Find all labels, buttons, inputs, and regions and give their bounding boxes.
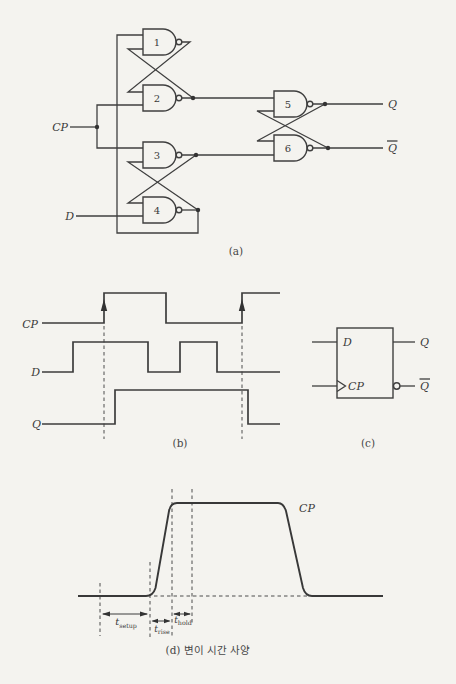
circuit-qbar-label: Q <box>388 142 397 155</box>
t-rise-arrowhead-left <box>152 619 159 623</box>
symbol-c: D CP Q Q (c) <box>312 328 430 449</box>
symbol-qbar-bubble <box>394 383 400 389</box>
junction-g3-out <box>194 153 198 157</box>
gate-5-number: 5 <box>285 99 291 110</box>
spec-d: tsetup trise thold CP (d) 변이 시간 사양 <box>78 489 383 656</box>
junction-cp <box>95 125 99 129</box>
circuit-cp-label: CP <box>52 121 68 134</box>
wire-g2-out-to-g1-in <box>128 49 193 98</box>
t-setup-arrowhead-left <box>102 612 110 617</box>
d-waveform <box>42 342 280 372</box>
t-setup-label: tsetup <box>115 616 137 630</box>
gate-3-number: 3 <box>154 150 160 161</box>
circuit-q-label: Q <box>388 98 397 111</box>
timing-b: CP D Q (b) <box>22 293 280 449</box>
caption-d: (d) 변이 시간 사양 <box>166 644 251 656</box>
timing-q-label: Q <box>32 418 41 431</box>
circuit-d-label: D <box>64 210 74 223</box>
circuit-a: 1 2 3 4 5 6 CP D Q Q <box>52 29 397 257</box>
t-hold-label: thold <box>174 615 192 626</box>
dff-figure-svg: 1 2 3 4 5 6 CP D Q Q <box>0 0 456 684</box>
cp-rising-edge-arrow-2 <box>239 299 245 311</box>
junction-g2-out <box>191 96 195 100</box>
symbol-cp-label: CP <box>348 380 364 393</box>
t-hold-arrowhead-right <box>184 612 191 616</box>
caption-a: (a) <box>229 245 243 257</box>
nand-gate-1: 1 <box>143 29 182 55</box>
symbol-d-label: D <box>342 336 352 349</box>
scanned-figure-page: 1 2 3 4 5 6 CP D Q Q <box>0 0 456 684</box>
clock-edge-triangle-icon <box>337 381 346 392</box>
nand-gate-3: 3 <box>143 142 182 168</box>
q-waveform <box>42 390 280 424</box>
nand-gate-4: 4 <box>143 197 182 223</box>
junction-g4-out <box>196 208 200 212</box>
gate-6-number: 6 <box>285 143 291 154</box>
spec-cp-label: CP <box>299 502 315 515</box>
junction-g6-out <box>326 146 330 150</box>
t-rise-label: trise <box>154 624 170 635</box>
wire-cp-branch <box>97 105 143 148</box>
t-setup-arrowhead-right <box>140 612 148 617</box>
nand-gate-6: 6 <box>274 135 313 161</box>
timing-cp-label: CP <box>22 318 38 331</box>
junction-g5-out <box>323 102 327 106</box>
caption-b: (b) <box>173 437 188 449</box>
gate-2-number: 2 <box>154 93 160 104</box>
gate-1-number: 1 <box>154 37 160 48</box>
cp-pulse-waveform <box>78 503 383 596</box>
cp-rising-edge-arrow-1 <box>101 299 107 311</box>
nand-gate-2: 2 <box>143 85 182 111</box>
symbol-q-label: Q <box>420 336 429 349</box>
caption-c: (c) <box>361 437 375 449</box>
timing-d-label: D <box>30 366 40 379</box>
symbol-qbar-label: Q <box>420 380 429 393</box>
gate-4-number: 4 <box>154 205 160 216</box>
t-rise-arrowhead-right <box>164 619 171 623</box>
